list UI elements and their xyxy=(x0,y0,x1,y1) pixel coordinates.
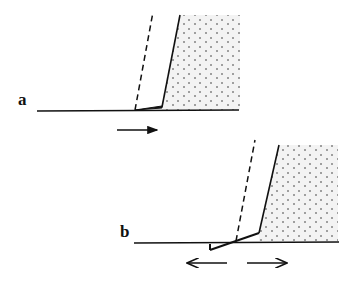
basal-wedge-b xyxy=(210,233,259,250)
dashed-original-face-b xyxy=(236,140,255,241)
stippled-block-a xyxy=(162,15,240,110)
panel-a-label: a xyxy=(18,90,27,109)
panel-a: a xyxy=(18,12,240,130)
panel-b: b xyxy=(120,140,339,263)
panel-b-label: b xyxy=(120,222,129,241)
basal-wedge-a xyxy=(135,106,162,110)
diagram-canvas: a b xyxy=(0,0,359,285)
stippled-block-b xyxy=(259,145,338,241)
dashed-original-face-a xyxy=(135,12,153,110)
baseline-b xyxy=(134,242,339,243)
